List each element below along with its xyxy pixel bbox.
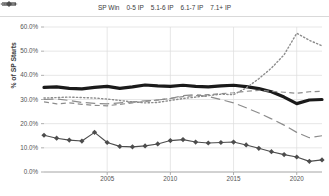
data-point-marker [319,157,324,162]
series-line-2 [44,90,322,105]
data-point-marker [168,138,173,143]
x-axis-tick-label: 2010 [163,176,177,182]
data-point-marker [307,159,312,164]
y-axis-tick-label: 0.0% [4,169,38,175]
data-point-marker [180,137,185,142]
x-axis-tick-label: 2005 [100,176,114,182]
y-axis-tick-label: 10.0% [4,145,38,151]
data-point-marker [294,154,299,159]
y-axis-tick-label: 60.0% [4,24,38,30]
y-axis-tick-label: 40.0% [4,72,38,78]
data-point-marker [54,136,59,141]
y-axis-tick-label: 50.0% [4,48,38,54]
y-axis-tick-labels: 0.0%10.0%20.0%30.0%40.0%50.0%60.0% [4,0,38,196]
series-line-0 [44,85,322,104]
data-point-marker [117,144,122,149]
data-point-marker [41,133,46,138]
data-point-marker [269,149,274,154]
series-line-3 [44,95,322,138]
data-point-marker [218,140,223,145]
data-point-marker [244,142,249,147]
x-axis-tick-label: 2020 [290,176,304,182]
data-point-marker [155,141,160,146]
series-line-1 [44,33,322,103]
data-point-marker [231,139,236,144]
series-line-4 [44,132,322,161]
y-axis-tick-label: 20.0% [4,121,38,127]
data-point-marker [67,138,72,143]
data-point-marker [206,140,211,145]
x-axis-tick-label: 2015 [227,176,241,182]
plot-area [0,0,329,196]
data-point-marker [193,139,198,144]
data-point-marker [256,146,261,151]
chart-container: SP Win 0-5 IP 5.1-6 IP 6.1-7 IP 7.1+ IP [0,0,329,196]
data-point-marker [130,144,135,149]
data-point-marker [281,152,286,157]
y-axis-tick-label: 30.0% [4,96,38,102]
